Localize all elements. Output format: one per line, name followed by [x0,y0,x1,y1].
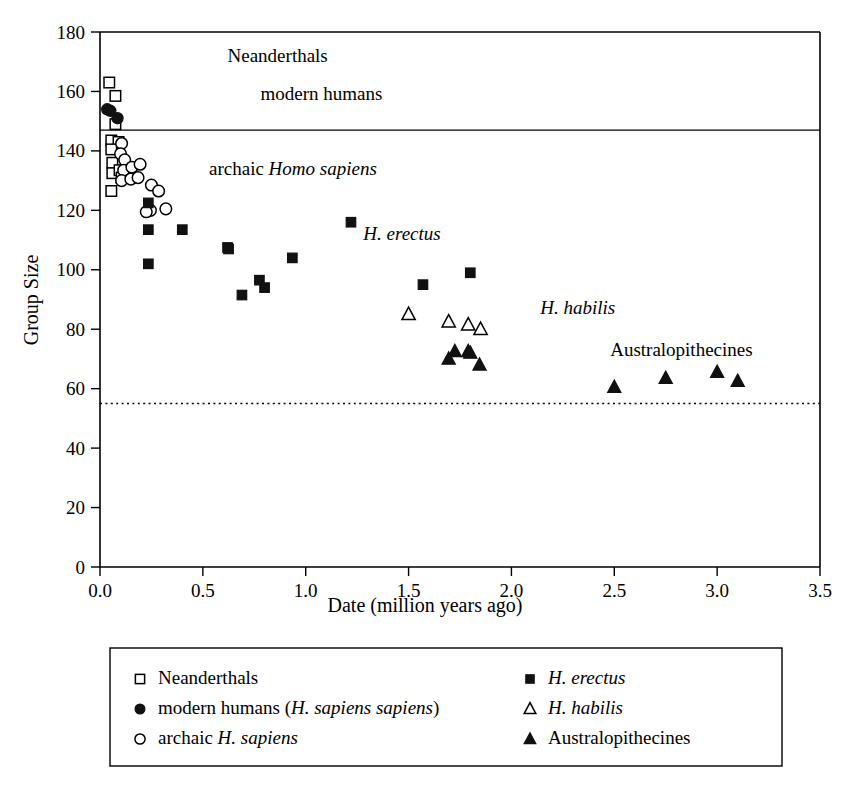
open-circle-legend-icon [135,734,145,744]
legend-italic: H. habilis [547,697,623,718]
data-point [110,91,121,102]
data-point [418,280,428,290]
y-tick-label: 100 [57,259,86,280]
annotation-archaic-homo-sapiens: archaic Homo sapiens [209,158,377,179]
data-point [237,290,247,300]
legend-roman: Australopithecines [548,727,690,748]
legend-australopithecines-label: Australopithecines [548,727,690,748]
open-circle-marker [134,158,146,170]
legend-modern-humans[interactable]: modern humans (H. sapiens sapiens) [135,697,439,719]
data-point [346,217,356,227]
filled-square-marker [144,198,154,208]
data-point [288,253,298,263]
x-axis-title: Date (million years ago) [328,594,523,617]
x-tick-label: 0.5 [191,580,215,601]
annotation-h-erectus: H. erectus [362,223,440,244]
filled-square-marker [418,280,428,290]
y-axis-title: Group Size [20,255,43,346]
legend-roman: modern humans ( [158,697,291,719]
data-point [260,283,270,293]
annotation-h-habilis: H. habilis [539,297,615,318]
annotation-roman: Australopithecines [610,339,752,360]
legend-h-habilis-label: H. habilis [547,697,623,718]
data-point [144,198,154,208]
legend-roman: Neanderthals [158,667,258,688]
filled-circle-marker [112,113,123,124]
legend-modern-humans-label: modern humans (H. sapiens sapiens) [158,697,439,719]
filled-square-marker [144,225,154,235]
y-tick-label: 140 [57,140,86,161]
y-tick-label: 20 [66,497,85,518]
data-point [178,225,188,235]
annotation-australopithecines: Australopithecines [610,339,752,360]
y-tick-label: 0 [76,557,86,578]
filled-square-marker [260,283,270,293]
chart-canvas: 020406080100120140160180 0.00.51.01.52.0… [0,0,855,790]
annotation-italic: H. erectus [362,223,440,244]
legend-australopithecines[interactable]: Australopithecines [524,727,690,748]
data-point [112,113,123,124]
open-circle-marker [160,203,172,215]
data-point [134,158,146,170]
legend-neanderthals-label: Neanderthals [158,667,258,688]
legend-archaic-h-sapiens[interactable]: archaic H. sapiens [135,727,298,748]
open-square-marker [135,674,144,683]
data-point [106,186,117,197]
open-circle-marker [132,172,144,184]
data-point [132,172,144,184]
x-tick-label: 2.5 [602,580,626,601]
x-tick-label: 3.0 [705,580,729,601]
legend-italic: H. sapiens sapiens [290,697,433,718]
annotation-neanderthals: Neanderthals [228,45,328,66]
filled-square-marker [526,675,534,683]
open-square-marker [110,91,121,102]
legend-h-erectus-label: H. erectus [547,667,625,688]
data-point [144,259,154,269]
data-point [466,268,476,278]
x-tick-label: 1.0 [294,580,318,601]
filled-square-marker [346,217,356,227]
data-point [104,77,115,88]
annotation-italic: Homo sapiens [268,158,377,179]
data-point [153,185,165,197]
filled-square-legend-icon [526,675,534,683]
data-point [144,225,154,235]
filled-square-marker [466,268,476,278]
annotation-italic: H. habilis [539,297,615,318]
filled-circle-legend-icon [135,704,145,714]
legend-italic: H. sapiens [217,727,298,748]
annotation-roman: modern humans [260,83,382,104]
open-square-marker [104,77,115,88]
open-circle-marker [135,734,145,744]
filled-square-marker [144,259,154,269]
data-point [224,244,234,254]
filled-square-marker [178,225,188,235]
legend-roman-tail: ) [433,697,439,719]
legend-archaic-h-sapiens-label: archaic H. sapiens [158,727,298,748]
y-tick-label: 160 [57,81,86,102]
legend: Neanderthalsmodern humans (H. sapiens sa… [110,648,782,766]
legend-roman: archaic [158,727,218,748]
x-tick-label: 3.5 [808,580,832,601]
y-tick-label: 180 [57,22,86,43]
open-square-marker [106,186,117,197]
annotation-roman: archaic [209,158,269,179]
open-square-legend-icon [135,674,144,683]
filled-circle-marker [135,704,145,714]
open-circle-marker [153,185,165,197]
y-tick-label: 60 [66,378,85,399]
filled-square-marker [288,253,298,263]
annotation-modern-humans: modern humans [260,83,382,104]
y-tick-label: 40 [66,438,85,459]
legend-italic: H. erectus [547,667,625,688]
filled-square-marker [237,290,247,300]
y-tick-label: 120 [57,200,86,221]
data-point [160,203,172,215]
annotation-roman: Neanderthals [228,45,328,66]
filled-square-marker [224,244,234,254]
x-tick-label: 0.0 [88,580,112,601]
y-tick-label: 80 [66,319,85,340]
group-size-vs-date-figure: 020406080100120140160180 0.00.51.01.52.0… [0,0,855,790]
